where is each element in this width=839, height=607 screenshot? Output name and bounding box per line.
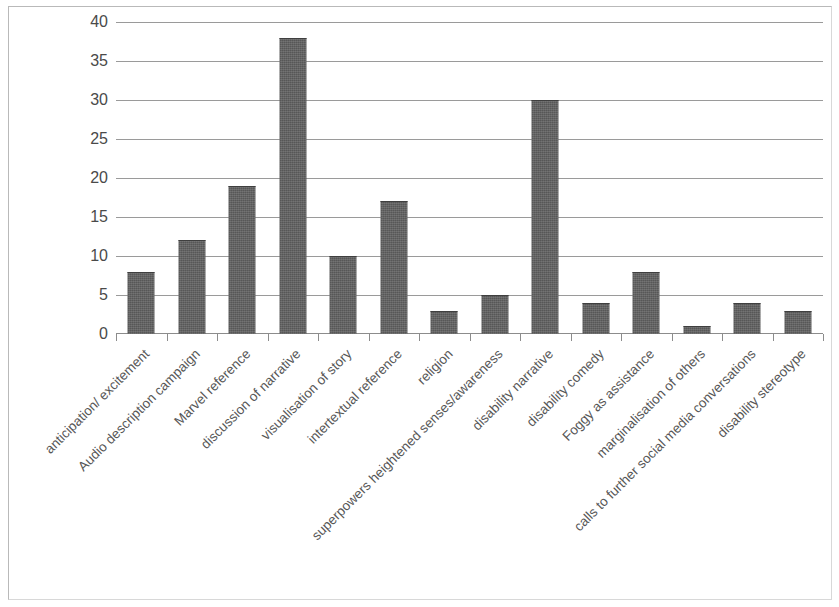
x-tick <box>520 334 521 341</box>
bar-slot <box>167 22 218 334</box>
x-axis-category-label: marginalisation of others <box>594 347 708 461</box>
bar[interactable] <box>431 311 458 334</box>
x-tick <box>672 334 673 341</box>
bar-slot <box>621 22 672 334</box>
bar[interactable] <box>582 303 609 334</box>
bar-slot <box>318 22 369 334</box>
bar[interactable] <box>481 295 508 334</box>
x-axis-category-label: religion <box>415 347 455 387</box>
x-tick <box>318 334 319 341</box>
x-axis-category-label: discussion of narrative <box>199 347 304 452</box>
bar-slot <box>470 22 521 334</box>
bar[interactable] <box>128 272 155 334</box>
x-tick <box>268 334 269 341</box>
x-tick <box>116 334 117 341</box>
plot-area <box>116 22 823 334</box>
bar-slot <box>419 22 470 334</box>
y-tick-label-10: 10 <box>68 248 108 264</box>
bar-slot <box>722 22 773 334</box>
bar-slot <box>268 22 319 334</box>
bar-slot <box>369 22 420 334</box>
bar[interactable] <box>380 201 407 334</box>
bar[interactable] <box>734 303 761 334</box>
x-tick <box>217 334 218 341</box>
bar[interactable] <box>229 186 256 334</box>
x-tick <box>369 334 370 341</box>
x-tick <box>722 334 723 341</box>
bar-chart-figure: 4035302520151050 anticipation/ excitemen… <box>0 0 839 607</box>
x-axis-category-label: intertextual reference <box>305 347 404 446</box>
x-axis-category-label: Audio description campaign <box>76 347 203 474</box>
bar[interactable] <box>279 38 306 334</box>
y-axis-labels: 4035302520151050 <box>62 22 108 334</box>
x-axis-category-label: disability narrative <box>470 347 556 433</box>
x-axis-category-label: disability comedy <box>524 347 606 429</box>
y-tick-label-25: 25 <box>68 131 108 147</box>
bars-group <box>116 22 823 334</box>
x-axis-category-label: superpowers heightened senses/awareness <box>310 347 506 543</box>
bar-slot <box>571 22 622 334</box>
x-tick <box>167 334 168 341</box>
y-tick-label-40: 40 <box>68 14 108 30</box>
x-tick <box>773 334 774 341</box>
x-tick <box>470 334 471 341</box>
y-tick-label-30: 30 <box>68 92 108 108</box>
y-tick-label-20: 20 <box>68 170 108 186</box>
bar-slot <box>672 22 723 334</box>
y-tick-label-0: 0 <box>68 326 108 342</box>
y-tick-label-5: 5 <box>68 287 108 303</box>
bar-slot <box>217 22 268 334</box>
x-tick <box>571 334 572 341</box>
bar-slot <box>773 22 824 334</box>
bar[interactable] <box>683 326 710 334</box>
x-axis-ticks <box>116 334 823 342</box>
x-tick <box>823 334 824 341</box>
x-axis-category-label: visualisation of story <box>259 347 355 443</box>
bar[interactable] <box>330 256 357 334</box>
x-tick <box>419 334 420 341</box>
bar[interactable] <box>532 100 559 334</box>
y-tick-label-15: 15 <box>68 209 108 225</box>
x-axis-category-label: Marvel reference <box>172 347 253 428</box>
x-axis-category-label: disability stereotype <box>715 347 808 440</box>
bar-slot <box>116 22 167 334</box>
x-axis-category-label: Foggy as assistance <box>560 347 657 444</box>
bar[interactable] <box>784 311 811 334</box>
bar[interactable] <box>633 272 660 334</box>
bar[interactable] <box>178 240 205 334</box>
x-axis-category-label: calls to further social media conversati… <box>571 347 758 534</box>
x-tick <box>621 334 622 341</box>
y-tick-label-35: 35 <box>68 53 108 69</box>
x-axis-category-label: anticipation/ excitement <box>43 347 152 456</box>
bar-slot <box>520 22 571 334</box>
